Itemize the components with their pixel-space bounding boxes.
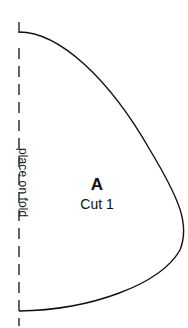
cut-instruction: Cut 1 (72, 196, 122, 212)
piece-letter: A (85, 175, 109, 195)
place-on-fold-label: place on fold (16, 148, 30, 217)
pattern-outline-curve (19, 32, 184, 311)
